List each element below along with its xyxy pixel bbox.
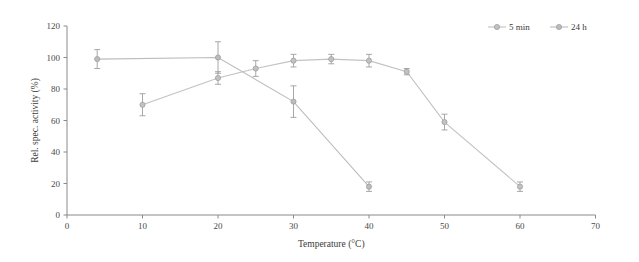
data-point (253, 66, 258, 71)
data-point (517, 184, 522, 189)
data-point (140, 102, 145, 107)
data-point (442, 119, 447, 124)
y-tick-label: 60 (51, 116, 61, 126)
series-5-min (140, 54, 524, 191)
x-tick-label: 40 (365, 221, 375, 231)
x-tick-label: 20 (214, 221, 224, 231)
x-tick-label: 70 (591, 221, 601, 231)
x-tick-label: 0 (65, 221, 70, 231)
y-tick-label: 120 (47, 21, 61, 31)
legend-marker (556, 24, 561, 29)
x-tick-label: 10 (138, 221, 148, 231)
y-tick-label: 0 (56, 210, 61, 220)
series-line (97, 58, 369, 187)
data-point (329, 56, 334, 61)
series-line (143, 59, 521, 187)
chart-figure: 020406080100120010203040506070Temperatur… (0, 0, 639, 262)
data-point (404, 69, 409, 74)
data-point (291, 58, 296, 63)
y-axis-title: Rel. spec. activity (%) (30, 78, 41, 163)
data-point (215, 55, 220, 60)
legend-entry-5-min[interactable]: 5 min (488, 22, 530, 32)
axes-group: 020406080100120010203040506070Temperatur… (30, 21, 601, 250)
x-axis-title: Temperature (°C) (298, 239, 365, 250)
y-tick-label: 20 (51, 179, 61, 189)
legend-marker (494, 24, 499, 29)
legend-label: 5 min (509, 22, 530, 32)
legend-entry-24-h[interactable]: 24 h (550, 22, 587, 32)
x-tick-label: 30 (289, 221, 299, 231)
data-point (95, 56, 100, 61)
line-chart-plot: 020406080100120010203040506070Temperatur… (0, 0, 639, 262)
data-point (291, 99, 296, 104)
data-point (366, 58, 371, 63)
legend: 5 min24 h (488, 22, 587, 32)
data-point (366, 184, 371, 189)
y-tick-label: 100 (47, 53, 61, 63)
x-tick-label: 50 (440, 221, 450, 231)
data-point (215, 75, 220, 80)
y-tick-label: 80 (51, 84, 61, 94)
y-tick-label: 40 (51, 147, 61, 157)
x-tick-label: 60 (516, 221, 526, 231)
legend-label: 24 h (571, 22, 587, 32)
